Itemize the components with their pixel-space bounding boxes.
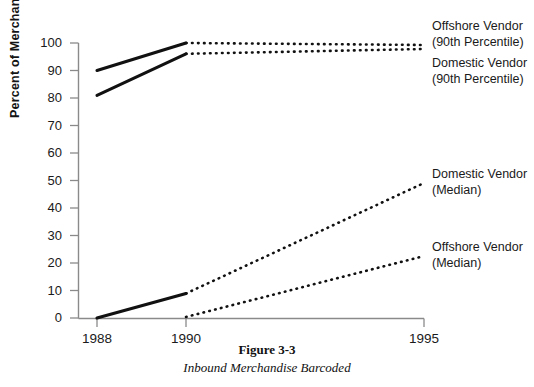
series-label-offshore-90th-line2: (90th Percentile): [432, 35, 524, 51]
y-tick-label-80: 80: [32, 90, 62, 105]
series-offshore-90th-dotted: [186, 43, 424, 45]
series-offshore-median-dotted: [186, 256, 424, 317]
y-tick-label-0: 0: [32, 310, 62, 325]
y-tick-label-30: 30: [32, 228, 62, 243]
y-tick-label-60: 60: [32, 145, 62, 160]
y-tick-label-50: 50: [32, 173, 62, 188]
y-tick-label-20: 20: [32, 255, 62, 270]
series-domestic-90th-dotted: [186, 49, 424, 54]
x-axis-ticks: [97, 319, 424, 328]
series-label-domestic-90th-line2: (90th Percentile): [432, 72, 527, 88]
series-label-domestic-median-line1: Domestic Vendor: [432, 167, 527, 183]
series-label-domestic-median: Domestic Vendor (Median): [432, 167, 527, 198]
series-domestic-median-dotted: [186, 183, 424, 294]
series-domestic-90th-solid: [97, 54, 186, 96]
figure-caption-subtitle: Inbound Merchandise Barcoded: [0, 360, 534, 376]
series-label-offshore-median-line2: (Median): [432, 256, 523, 272]
y-tick-label-10: 10: [32, 283, 62, 298]
y-axis-title: Percent of Merchandise: [8, 0, 22, 118]
y-tick-label-40: 40: [32, 200, 62, 215]
y-tick-label-70: 70: [32, 118, 62, 133]
series-label-domestic-median-line2: (Median): [432, 183, 527, 199]
series-offshore-90th-solid: [97, 43, 186, 71]
series-label-offshore-median-line1: Offshore Vendor: [432, 240, 523, 256]
y-axis-ticks: [70, 43, 79, 318]
series-label-offshore-median: Offshore Vendor (Median): [432, 240, 523, 271]
figure-caption-title: Figure 3-3: [0, 342, 534, 358]
series-label-offshore-90th: Offshore Vendor (90th Percentile): [432, 19, 524, 50]
series-label-offshore-90th-line1: Offshore Vendor: [432, 19, 524, 35]
series-domestic-median-solid: [97, 294, 186, 319]
y-tick-label-100: 100: [32, 35, 62, 50]
series-label-domestic-90th: Domestic Vendor (90th Percentile): [432, 56, 527, 87]
y-tick-label-90: 90: [32, 63, 62, 78]
series-label-domestic-90th-line1: Domestic Vendor: [432, 56, 527, 72]
figure-container: Percent of Merchandise 100 90 80 70 60 5…: [0, 0, 534, 387]
